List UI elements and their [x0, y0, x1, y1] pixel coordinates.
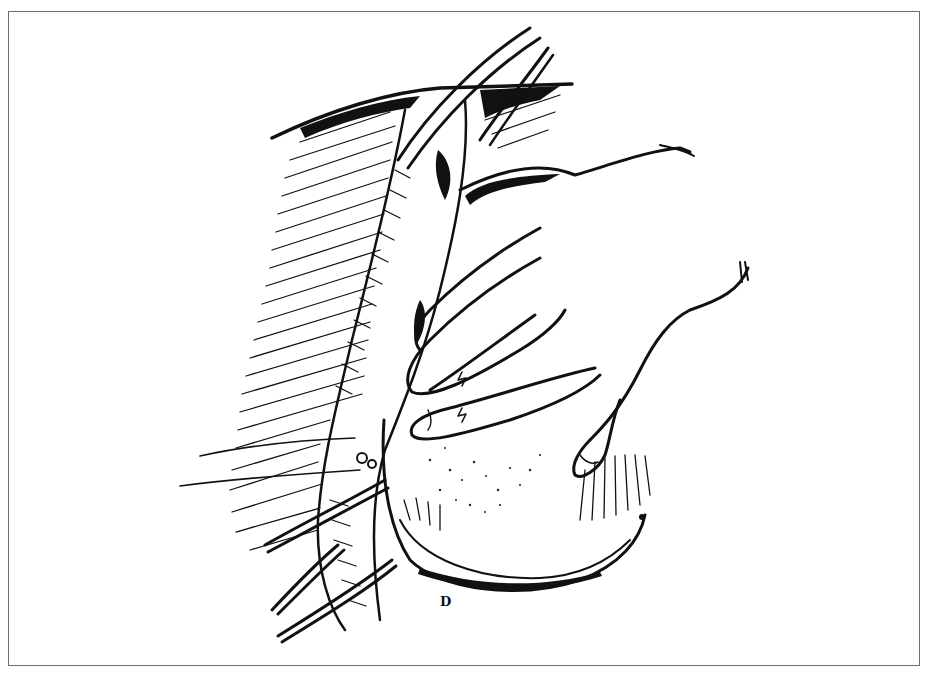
artist-signature: D: [440, 594, 451, 609]
sutures: [180, 438, 376, 486]
lower-forceps-2: [272, 545, 338, 610]
lower-forceps-1: [265, 480, 385, 545]
suture-1: [200, 438, 355, 456]
suture-2: [180, 470, 360, 486]
surgical-illustration: [0, 0, 932, 680]
hand-retracting-organ: [408, 145, 748, 476]
stippled-organ: [383, 420, 650, 590]
